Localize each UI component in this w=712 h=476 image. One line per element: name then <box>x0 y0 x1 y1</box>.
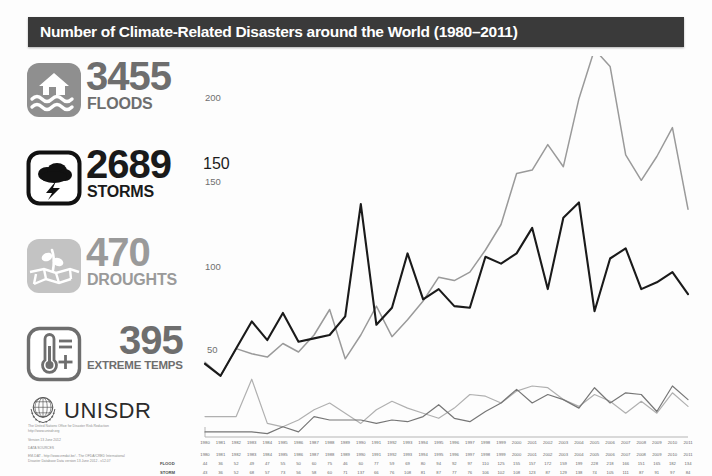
stat-storms-value: 2689 <box>86 146 171 183</box>
stat-floods: 3455 FLOODS <box>26 58 206 136</box>
table-cell: 87 <box>639 470 644 475</box>
table-cell: 52 <box>234 461 239 466</box>
table-cell: 87 <box>545 470 550 475</box>
table-cell: 159 <box>560 461 567 466</box>
x-tick-2006: 2006 <box>605 440 615 445</box>
table-cell: 199 <box>575 461 582 466</box>
series-storm <box>205 202 688 375</box>
table-cell: 1984 <box>263 452 272 457</box>
table-cell: 151 <box>638 461 645 466</box>
table-cell: 111 <box>622 470 628 475</box>
table-cell: 1998 <box>481 452 490 457</box>
table-cell: 71 <box>343 470 348 475</box>
table-cell: 76 <box>390 470 395 475</box>
table-cell: 1999 <box>496 452 505 457</box>
table-cell: 125 <box>498 461 505 466</box>
series-drought <box>205 379 688 427</box>
table-cell: 110 <box>482 461 489 466</box>
table-cell: 1980 <box>200 452 209 457</box>
table-cell: 218 <box>607 461 614 466</box>
x-tick-1985: 1985 <box>278 440 288 445</box>
table-cell: 68 <box>249 470 254 475</box>
table-cell: 102 <box>498 470 505 475</box>
x-tick-2004: 2004 <box>574 440 584 445</box>
table-cell: 1988 <box>325 452 334 457</box>
stat-storms: 2689 STORMS <box>26 146 206 224</box>
table-cell: 57 <box>265 470 270 475</box>
table-cell: 1981 <box>216 452 225 457</box>
unisdr-wordmark: UNISDR <box>64 398 151 424</box>
table-cell: 92 <box>452 461 457 466</box>
stat-floods-label: FLOODS <box>87 96 152 112</box>
table-cell: 77 <box>452 470 457 475</box>
table-row: FLOOD44365249475550607546607759698094929… <box>160 461 708 470</box>
table-cell: 138 <box>575 470 582 475</box>
y-tick-100: 100 <box>205 261 221 272</box>
table-cell: 108 <box>513 470 520 475</box>
table-cell: 77 <box>374 461 379 466</box>
table-cell: 2004 <box>574 452 583 457</box>
stat-extreme-temps-value: 395 <box>119 322 183 359</box>
x-tick-2003: 2003 <box>559 440 569 445</box>
table-cell: 157 <box>529 461 536 466</box>
table-cell: 137 <box>357 470 364 475</box>
x-tick-1997: 1997 <box>465 440 475 445</box>
table-cell: 52 <box>234 470 239 475</box>
x-tick-2010: 2010 <box>668 440 678 445</box>
table-cell: 59 <box>390 461 395 466</box>
table-cell: 2008 <box>637 452 646 457</box>
x-tick-1994: 1994 <box>418 440 428 445</box>
table-cell: 165 <box>653 461 660 466</box>
table-cell: 1994 <box>418 452 427 457</box>
y-tick-150-large: 150 <box>203 155 230 173</box>
flood-house-icon <box>26 62 82 118</box>
stat-storms-label: STORMS <box>87 184 154 200</box>
stat-storms-text: 2689 STORMS <box>82 146 171 200</box>
table-cell: 129 <box>560 470 567 475</box>
table-cell: 1983 <box>247 452 256 457</box>
series-extreme-temps <box>205 386 688 434</box>
page-title: Number of Climate-Related Disasters arou… <box>28 23 518 41</box>
x-tick-1992: 1992 <box>387 440 397 445</box>
stat-droughts-value: 470 <box>86 234 150 271</box>
x-tick-2007: 2007 <box>621 440 631 445</box>
table-cell: 60 <box>358 461 363 466</box>
x-tick-2001: 2001 <box>527 440 537 445</box>
infographic-page: Number of Climate-Related Disasters arou… <box>0 0 712 476</box>
table-cell: 84 <box>686 470 691 475</box>
page-title-bar: Number of Climate-Related Disasters arou… <box>28 17 684 47</box>
table-cell: 50 <box>296 461 301 466</box>
table-cell: 182 <box>669 461 676 466</box>
table-cell: 74 <box>592 470 597 475</box>
y-tick-50: 50 <box>207 344 218 355</box>
x-tick-1991: 1991 <box>372 440 382 445</box>
x-tick-1989: 1989 <box>340 440 350 445</box>
table-cell: 2001 <box>528 452 537 457</box>
x-tick-1981: 1981 <box>216 440 226 445</box>
table-cell: 2006 <box>605 452 614 457</box>
table-cell: 1985 <box>278 452 287 457</box>
stat-droughts-label: DROUGHTS <box>87 272 177 288</box>
table-cell: 58 <box>312 470 317 475</box>
x-tick-1990: 1990 <box>356 440 366 445</box>
table-cell: 172 <box>544 461 551 466</box>
x-tick-2011: 2011 <box>683 440 692 445</box>
x-tick-1982: 1982 <box>231 440 241 445</box>
table-cell: 56 <box>296 470 301 475</box>
y-tick-150: 150 <box>205 176 221 187</box>
table-header-row: 1980198119821983198419851986198719881989… <box>160 452 708 461</box>
table-cell: 81 <box>421 470 426 475</box>
stat-droughts-text: 470 DROUGHTS <box>82 234 177 288</box>
table-cell: 2002 <box>543 452 552 457</box>
table-cell: 166 <box>622 461 629 466</box>
table-cell: 80 <box>421 461 426 466</box>
table-cell: 1991 <box>372 452 381 457</box>
table-cell: 36 <box>218 470 223 475</box>
x-tick-1980: 1980 <box>200 440 210 445</box>
table-cell: 55 <box>281 461 286 466</box>
x-tick-1995: 1995 <box>434 440 444 445</box>
stat-floods-text: 3455 FLOODS <box>82 58 171 112</box>
x-tick-1984: 1984 <box>263 440 273 445</box>
table-cell: 43 <box>203 470 208 475</box>
table-cell: 123 <box>529 470 536 475</box>
